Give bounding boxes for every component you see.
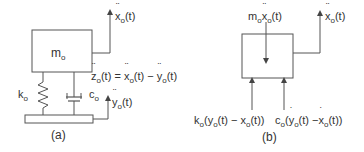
spring xyxy=(38,72,48,115)
relative-accel-equation: zo(t) = xo(t) − yo(t) xyxy=(91,71,177,82)
mass-label: mo xyxy=(51,47,65,59)
mass-accel-arrow xyxy=(92,12,110,53)
spring-label: ko xyxy=(18,89,28,100)
spring-force-label: ko(yo(t) − xo(t)) xyxy=(194,115,265,126)
mass-accel-label: xo(t) xyxy=(115,11,135,22)
damper-label: co xyxy=(89,89,99,100)
base-plate xyxy=(25,115,93,123)
caption-a: (a) xyxy=(51,129,66,141)
caption-b: (b) xyxy=(262,131,277,143)
free-body-block xyxy=(242,34,293,78)
base-accel-label: yo(t) xyxy=(112,97,132,108)
output-accel-label: xo(t) xyxy=(325,11,345,22)
damper-force-label: co(yo(t) −xo(t)) xyxy=(275,115,342,126)
output-accel-arrow xyxy=(293,13,320,53)
inertia-force-label: moxo(t) xyxy=(248,11,282,22)
figure: mo xo(t) zo(t) = xo(t) − yo(t) ko co yo(… xyxy=(0,0,364,152)
